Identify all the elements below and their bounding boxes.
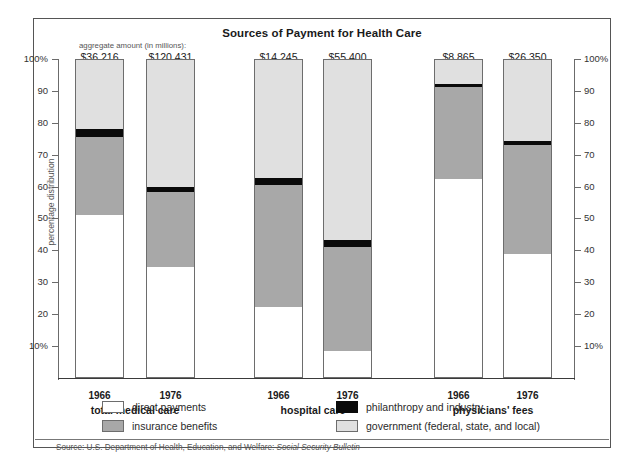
x-axis-year-label: 1976 [491,390,564,401]
legend-swatch-direct [102,401,124,413]
y-tick-right-30 [575,282,581,283]
y-tick-left-20 [52,314,58,315]
y-tick-label-left-40: 40 [6,244,48,255]
y-tick-label-left-70: 70 [6,149,48,160]
segment-philanthropy [76,129,123,137]
legend-label-gov: government (federal, state, and local) [366,420,540,432]
legend-item-gov[interactable]: government (federal, state, and local) [336,420,540,432]
stacked-bar[interactable] [434,59,483,378]
source-prefix: Source: U.S. Department of Health, Educa… [56,443,277,452]
segment-direct-payments [324,351,371,378]
y-tick-right-90 [575,91,581,92]
x-axis-year-label: 1966 [422,390,495,401]
segment-direct-payments [76,215,123,378]
y-tick-left-30 [52,282,58,283]
x-axis-year-label: 1966 [242,390,315,401]
aggregate-amount-caption: aggregate amount (in millions): [79,41,186,50]
y-tick-label-left-20: 20 [6,308,48,319]
stacked-bar[interactable] [146,59,195,378]
y-tick-label-left-90: 90 [6,85,48,96]
segment-insurance [76,137,123,215]
stacked-bar[interactable] [75,59,124,378]
segment-government [435,60,482,84]
y-tick-right-40 [575,250,581,251]
y-tick-label-left-10: 10% [6,340,48,351]
segment-direct-payments [435,179,482,378]
segment-insurance [255,185,302,307]
y-tick-right-80 [575,123,581,124]
y-tick-label-right-50: 50 [584,212,624,223]
y-tick-right-20 [575,314,581,315]
stacked-bar[interactable] [323,59,372,378]
y-tick-label-left-30: 30 [6,276,48,287]
stacked-bar[interactable] [254,59,303,378]
x-axis-baseline [58,378,575,379]
legend-label-direct: direct payments [132,401,206,413]
y-tick-label-right-80: 80 [584,117,624,128]
legend-item-direct[interactable]: direct payments [102,401,206,413]
chart-frame: Sources of Payment for Health Care aggre… [33,18,611,448]
y-tick-label-left-80: 80 [6,117,48,128]
segment-government [255,60,302,178]
stacked-bar[interactable] [503,59,552,378]
legend-label-phil: philanthropy and industry [366,401,483,413]
segment-direct-payments [504,254,551,378]
segment-insurance [147,192,194,267]
y-tick-label-right-20: 20 [584,308,624,319]
segment-direct-payments [255,307,302,378]
y-tick-left-90 [52,91,58,92]
x-axis-year-label: 1976 [311,390,384,401]
y-tick-label-right-70: 70 [584,149,624,160]
y-tick-label-right-40: 40 [584,244,624,255]
y-tick-label-right-90: 90 [584,85,624,96]
segment-insurance [504,145,551,254]
segment-government [324,60,371,240]
y-tick-right-100 [575,59,581,60]
y-axis-right [574,59,575,380]
y-axis-left [58,59,59,380]
y-tick-label-right-100: 100% [584,53,624,64]
y-tick-label-left-60: 60 [6,181,48,192]
y-tick-left-10 [52,346,58,347]
segment-philanthropy [324,240,371,247]
segment-direct-payments [147,267,194,378]
segment-philanthropy [255,178,302,185]
legend-swatch-ins [102,420,124,432]
legend-item-ins[interactable]: insurance benefits [102,420,217,432]
segment-government [147,60,194,187]
segment-government [504,60,551,141]
y-tick-right-60 [575,187,581,188]
legend-swatch-gov [336,420,358,432]
y-tick-label-left-100: 100% [6,53,48,64]
segment-insurance [435,87,482,179]
chart-legend: direct paymentsinsurance benefitsphilant… [34,401,610,441]
x-axis-year-label: 1966 [63,390,136,401]
y-tick-left-100 [52,59,58,60]
y-tick-right-50 [575,218,581,219]
legend-item-phil[interactable]: philanthropy and industry [336,401,483,413]
y-tick-label-right-30: 30 [584,276,624,287]
y-tick-left-80 [52,123,58,124]
segment-insurance [324,247,371,351]
legend-swatch-phil [336,401,358,413]
y-tick-label-right-60: 60 [584,181,624,192]
y-tick-right-10 [575,346,581,347]
y-tick-label-right-10: 10% [584,340,624,351]
y-axis-title: percentage distribution [46,137,56,267]
segment-government [76,60,123,129]
legend-label-ins: insurance benefits [132,420,217,432]
source-note: Source: U.S. Department of Health, Educa… [56,443,360,452]
y-tick-right-70 [575,155,581,156]
chart-title: Sources of Payment for Health Care [34,27,610,39]
x-axis-year-label: 1976 [134,390,207,401]
legend-divider [35,439,609,440]
y-tick-label-left-50: 50 [6,212,48,223]
source-publication: Social Security Bulletin [277,443,360,452]
